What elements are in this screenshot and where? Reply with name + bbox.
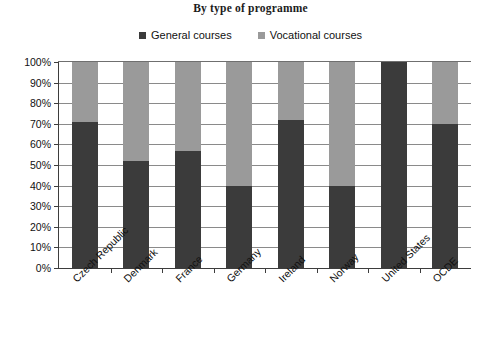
y-axis-tick	[54, 83, 59, 84]
bar-segment-vocational[interactable]	[329, 62, 355, 186]
bar-segment-vocational[interactable]	[123, 62, 149, 161]
y-axis-label: 0%	[36, 262, 51, 274]
gridline	[59, 186, 471, 187]
gridline	[59, 103, 471, 104]
legend-swatch-icon-vocational	[258, 32, 265, 39]
y-axis-tick	[54, 103, 59, 104]
x-axis-tick	[420, 268, 421, 273]
bar-column[interactable]	[329, 62, 355, 268]
x-axis-tick	[368, 268, 369, 273]
bar-column[interactable]	[381, 62, 407, 268]
y-axis-label: 30%	[30, 200, 51, 212]
y-axis-label: 60%	[30, 138, 51, 150]
bar-segment-general[interactable]	[72, 122, 98, 268]
x-axis-tick	[162, 268, 163, 273]
y-axis-tick	[54, 186, 59, 187]
bar-column[interactable]	[175, 62, 201, 268]
bar-column[interactable]	[278, 62, 304, 268]
gridline	[59, 83, 471, 84]
bar-column[interactable]	[123, 62, 149, 268]
x-axis-tick	[111, 268, 112, 273]
y-axis-tick	[54, 227, 59, 228]
bar-segment-general[interactable]	[175, 151, 201, 268]
y-axis-label: 10%	[30, 241, 51, 253]
bar-column[interactable]	[72, 62, 98, 268]
gridline	[59, 144, 471, 145]
bar-segment-general[interactable]	[432, 124, 458, 268]
y-axis-tick	[54, 165, 59, 166]
legend-swatch-icon-general	[139, 32, 146, 39]
bar-segment-vocational[interactable]	[432, 62, 458, 124]
y-axis-label: 90%	[30, 77, 51, 89]
y-axis-label: 80%	[30, 97, 51, 109]
bar-segment-vocational[interactable]	[175, 62, 201, 151]
y-axis-tick	[54, 124, 59, 125]
y-axis-tick	[54, 144, 59, 145]
legend-item-general-courses: General courses	[139, 29, 232, 41]
y-axis-label: 50%	[30, 159, 51, 171]
y-axis-label: 20%	[30, 221, 51, 233]
x-axis-tick	[265, 268, 266, 273]
gridline	[59, 124, 471, 125]
y-axis-label: 70%	[30, 118, 51, 130]
bar-segment-vocational[interactable]	[226, 62, 252, 186]
bar-segment-vocational[interactable]	[278, 62, 304, 120]
y-axis-tick	[54, 206, 59, 207]
bar-column[interactable]	[226, 62, 252, 268]
legend-item-vocational-courses: Vocational courses	[258, 29, 362, 41]
bar-segment-vocational[interactable]	[72, 62, 98, 122]
gridline	[59, 206, 471, 207]
y-axis-label: 40%	[30, 180, 51, 192]
x-axis-tick	[317, 268, 318, 273]
legend-label-general: General courses	[151, 29, 232, 41]
chart-title: By type of programme	[0, 2, 501, 14]
y-axis-label: 100%	[24, 56, 51, 68]
legend-label-vocational: Vocational courses	[270, 29, 362, 41]
x-axis-tick	[214, 268, 215, 273]
chart-page: By type of programme General courses Voc…	[0, 0, 501, 355]
y-axis-tick	[54, 247, 59, 248]
y-axis-tick	[54, 62, 59, 63]
bar-segment-general[interactable]	[278, 120, 304, 268]
bar-segment-general[interactable]	[381, 62, 407, 268]
gridline	[59, 165, 471, 166]
chart-legend: General courses Vocational courses	[0, 29, 501, 41]
bar-column[interactable]	[432, 62, 458, 268]
y-axis-tick	[54, 268, 59, 269]
